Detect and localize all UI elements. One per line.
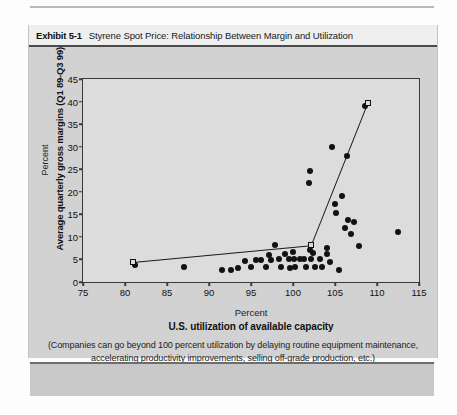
y-tick-mark	[79, 259, 83, 261]
x-axis-title: U.S. utilization of available capacity	[82, 321, 420, 332]
plot-frame: 0510152025303540457580859095100105110115	[82, 78, 420, 283]
y-tick-mark	[79, 214, 83, 216]
x-tick-label: 105	[327, 287, 343, 298]
x-tick-label: 90	[204, 287, 215, 298]
data-point	[268, 257, 274, 263]
x-tick-label: 75	[78, 287, 89, 298]
y-tick-mark	[79, 101, 83, 103]
data-point	[327, 259, 333, 265]
x-tick-label: 110	[369, 287, 384, 298]
exhibit-number: Exhibit 5-1	[36, 30, 82, 41]
data-point	[348, 231, 354, 237]
data-point	[336, 267, 342, 273]
data-point	[242, 258, 248, 264]
data-point	[248, 264, 254, 270]
data-point	[272, 242, 278, 248]
trend-line	[311, 103, 368, 245]
data-point	[310, 250, 316, 256]
y-tick-label: 25	[67, 164, 78, 175]
data-point-square	[308, 242, 314, 248]
data-point	[356, 243, 362, 249]
x-tick-label: 95	[246, 287, 257, 298]
data-point	[263, 264, 269, 270]
data-point	[228, 267, 234, 273]
data-point	[329, 144, 335, 150]
data-point	[319, 264, 325, 270]
y-tick-mark	[79, 236, 83, 238]
x-axis-unit-label: Percent	[82, 307, 420, 318]
y-tick-label: 10	[67, 231, 78, 242]
y-tick-mark	[79, 191, 83, 193]
x-tick-mark	[418, 282, 420, 286]
x-tick-label: 80	[120, 287, 131, 298]
data-point	[258, 257, 264, 263]
exhibit-page: Exhibit 5-1 Styrene Spot Price: Relation…	[0, 0, 457, 415]
exhibit-footnote: (Companies can go beyond 100 percent uti…	[43, 339, 423, 364]
data-point	[342, 225, 348, 231]
data-point-square	[365, 100, 371, 106]
y-tick-label: 40	[67, 96, 78, 107]
data-point	[312, 264, 318, 270]
data-point	[307, 168, 313, 174]
y-tick-mark	[79, 123, 83, 125]
data-point	[332, 201, 338, 207]
data-point	[333, 210, 339, 216]
y-tick-label: 0	[73, 277, 78, 288]
exhibit-title: Styrene Spot Price: Relationship Between…	[89, 30, 353, 41]
y-axis-title: Average quarterly gross margins (Q1 89-Q…	[54, 51, 65, 251]
data-point	[290, 249, 296, 255]
x-tick-mark	[292, 282, 294, 286]
data-point	[395, 229, 401, 235]
x-tick-label: 115	[411, 287, 426, 298]
data-point	[317, 256, 323, 262]
data-point	[235, 265, 241, 271]
data-point	[324, 251, 330, 257]
x-tick-mark	[208, 282, 210, 286]
data-point	[351, 219, 357, 225]
y-tick-mark	[79, 168, 83, 170]
data-point	[278, 264, 284, 270]
data-point	[306, 180, 312, 186]
y-tick-mark	[79, 78, 83, 80]
y-tick-label: 35	[67, 119, 78, 130]
x-tick-mark	[376, 282, 378, 286]
x-tick-mark	[334, 282, 336, 286]
y-tick-label: 45	[67, 74, 78, 85]
data-point	[219, 267, 225, 273]
data-point-square	[130, 259, 136, 265]
chart-area: Average quarterly gross margins (Q1 89-Q…	[29, 45, 437, 358]
data-point	[344, 153, 350, 159]
y-tick-label: 30	[67, 141, 78, 152]
x-tick-mark	[82, 282, 84, 286]
x-tick-label: 85	[162, 287, 173, 298]
x-tick-mark	[250, 282, 252, 286]
data-point	[339, 193, 345, 199]
data-point	[292, 264, 298, 270]
data-point	[308, 256, 314, 262]
exhibit-panel: Exhibit 5-1 Styrene Spot Price: Relation…	[28, 25, 438, 358]
data-point	[301, 256, 307, 262]
data-point	[276, 256, 282, 262]
y-tick-label: 20	[67, 186, 78, 197]
data-point	[303, 264, 309, 270]
y-tick-label: 15	[67, 209, 78, 220]
data-point	[181, 264, 187, 270]
x-tick-mark	[166, 282, 168, 286]
y-axis-unit-label: Percent	[40, 120, 50, 200]
top-divider	[30, 6, 434, 8]
y-tick-label: 5	[73, 254, 78, 265]
exhibit-header: Exhibit 5-1 Styrene Spot Price: Relation…	[29, 25, 437, 47]
x-tick-mark	[124, 282, 126, 286]
footer-band	[30, 364, 434, 396]
y-tick-mark	[79, 146, 83, 148]
x-tick-label: 100	[285, 287, 301, 298]
